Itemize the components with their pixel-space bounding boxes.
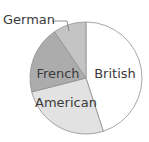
label-british: British [94,66,136,81]
label-german: German [3,12,55,27]
label-american: American [35,95,97,110]
pie-chart: British American French German [0,0,149,142]
label-french: French [36,66,79,81]
